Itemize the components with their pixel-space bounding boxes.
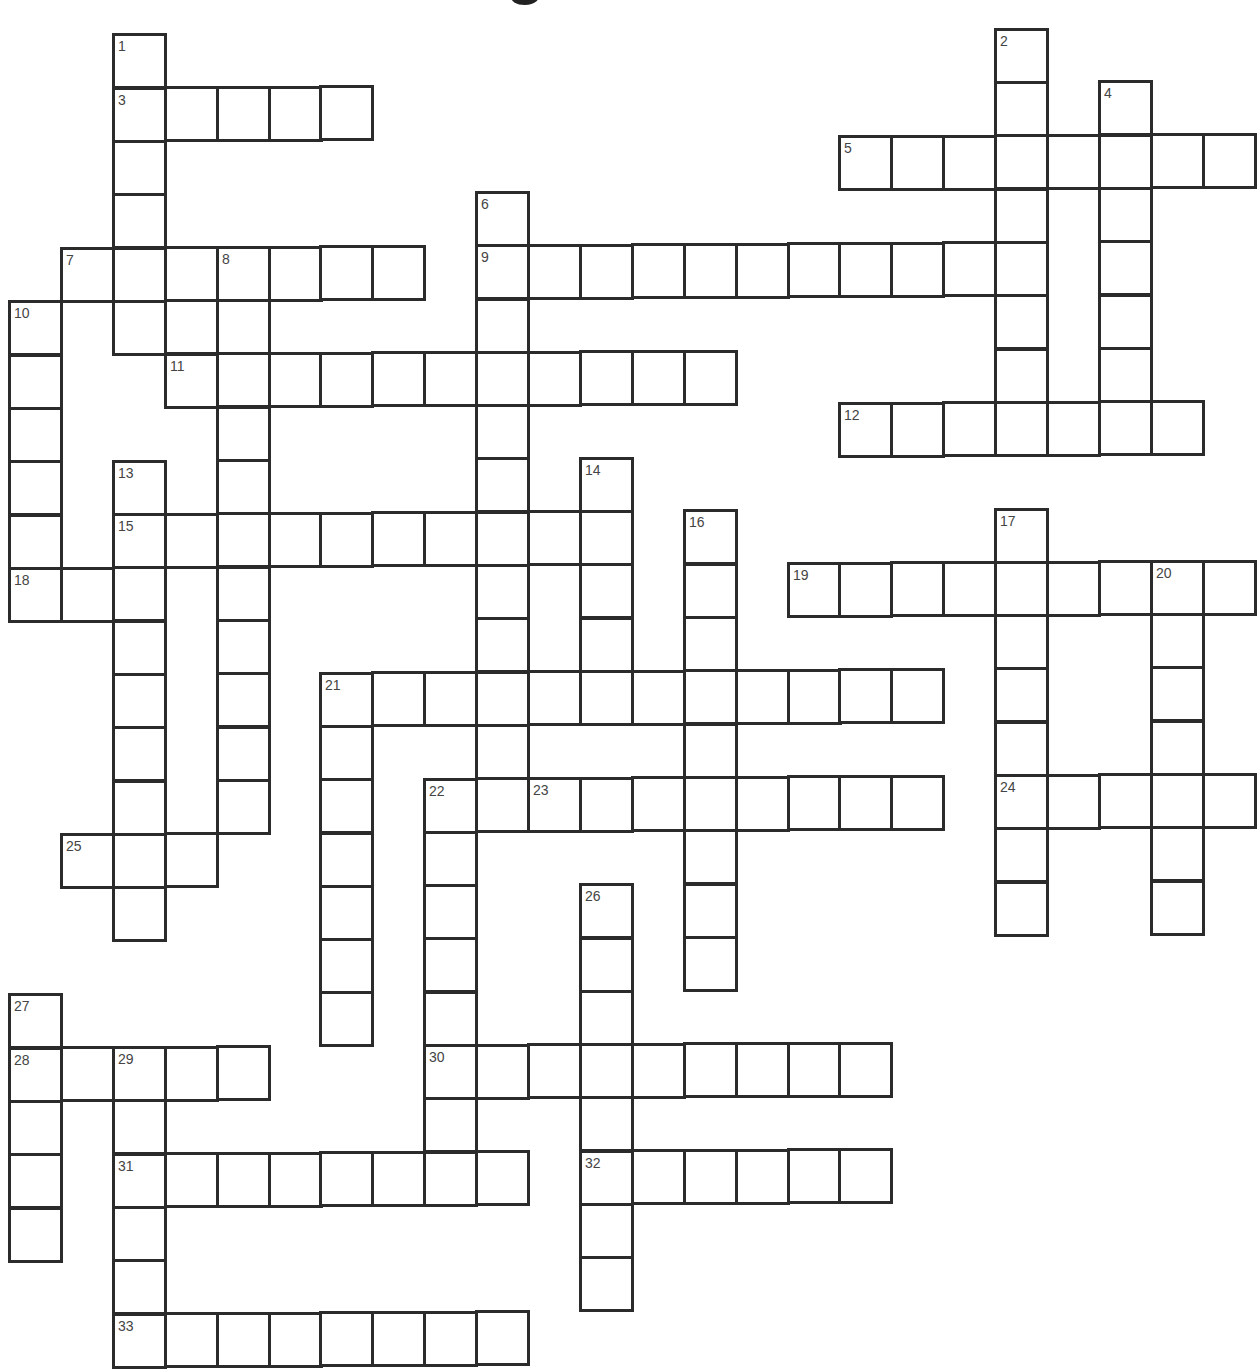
crossword-cell[interactable]: 29 — [112, 1046, 167, 1102]
cell-letter-input[interactable] — [426, 1047, 475, 1097]
cell-letter-input[interactable] — [1049, 564, 1098, 614]
cell-letter-input[interactable] — [997, 244, 1046, 294]
crossword-cell[interactable]: 4 — [1098, 80, 1153, 136]
cell-letter-input[interactable] — [1153, 723, 1202, 773]
crossword-cell[interactable]: 9 — [475, 244, 530, 300]
cell-letter-input[interactable] — [945, 138, 994, 188]
cell-letter-input[interactable] — [478, 567, 527, 617]
crossword-cell[interactable] — [475, 404, 530, 460]
crossword-cell[interactable] — [994, 561, 1049, 617]
crossword-cell[interactable] — [1046, 774, 1101, 830]
cell-letter-input[interactable] — [11, 1050, 60, 1100]
cell-letter-input[interactable] — [167, 1155, 216, 1205]
cell-letter-input[interactable] — [997, 830, 1046, 880]
crossword-cell[interactable]: 8 — [216, 246, 271, 302]
cell-letter-input[interactable] — [997, 724, 1046, 774]
cell-letter-input[interactable] — [219, 409, 268, 459]
crossword-cell[interactable] — [890, 402, 945, 458]
crossword-cell[interactable] — [527, 1043, 582, 1099]
cell-letter-input[interactable] — [1153, 403, 1202, 453]
crossword-cell[interactable]: 26 — [579, 883, 634, 939]
crossword-cell[interactable] — [1098, 400, 1153, 456]
crossword-cell[interactable] — [216, 299, 271, 355]
cell-letter-input[interactable] — [426, 1314, 475, 1364]
cell-letter-input[interactable] — [115, 516, 164, 566]
cell-letter-input[interactable] — [582, 460, 631, 510]
crossword-cell[interactable] — [319, 512, 374, 568]
cell-letter-input[interactable] — [478, 727, 527, 777]
cell-letter-input[interactable] — [1049, 404, 1098, 454]
crossword-cell[interactable] — [1098, 240, 1153, 296]
cell-letter-input[interactable] — [322, 941, 371, 991]
crossword-cell[interactable] — [423, 1097, 478, 1153]
cell-letter-input[interactable] — [322, 248, 371, 298]
crossword-cell[interactable] — [371, 351, 426, 407]
cell-letter-input[interactable] — [686, 1045, 735, 1095]
cell-letter-input[interactable] — [790, 1045, 839, 1095]
crossword-cell[interactable] — [579, 563, 634, 619]
cell-letter-input[interactable] — [582, 513, 631, 563]
crossword-cell[interactable] — [579, 670, 634, 726]
cell-letter-input[interactable] — [530, 780, 579, 830]
crossword-cell[interactable] — [994, 134, 1049, 190]
crossword-cell[interactable] — [423, 884, 478, 940]
cell-letter-input[interactable] — [1205, 136, 1254, 186]
crossword-cell[interactable]: 11 — [164, 353, 219, 409]
cell-letter-input[interactable] — [841, 138, 890, 188]
cell-letter-input[interactable] — [997, 884, 1046, 934]
cell-letter-input[interactable] — [115, 1102, 164, 1152]
crossword-cell[interactable]: 7 — [60, 247, 115, 303]
crossword-cell[interactable]: 32 — [579, 1150, 634, 1206]
crossword-cell[interactable] — [112, 780, 167, 836]
crossword-cell[interactable] — [475, 511, 530, 567]
cell-letter-input[interactable] — [790, 1151, 839, 1201]
cell-letter-input[interactable] — [374, 354, 423, 404]
crossword-cell[interactable] — [8, 1153, 63, 1209]
cell-letter-input[interactable] — [167, 1315, 216, 1365]
cell-letter-input[interactable] — [686, 566, 735, 616]
crossword-cell[interactable]: 10 — [8, 300, 63, 356]
crossword-cell[interactable] — [475, 724, 530, 780]
cell-letter-input[interactable] — [582, 620, 631, 670]
crossword-cell[interactable] — [1150, 400, 1205, 456]
cell-letter-input[interactable] — [167, 89, 216, 139]
crossword-cell[interactable] — [1098, 187, 1153, 243]
cell-letter-input[interactable] — [322, 781, 371, 831]
cell-letter-input[interactable] — [115, 196, 164, 246]
crossword-cell[interactable] — [475, 671, 530, 727]
cell-letter-input[interactable] — [115, 783, 164, 833]
cell-letter-input[interactable] — [11, 517, 60, 567]
cell-letter-input[interactable] — [322, 994, 371, 1044]
crossword-cell[interactable] — [319, 991, 374, 1047]
crossword-cell[interactable] — [268, 246, 323, 302]
crossword-cell[interactable] — [838, 775, 893, 831]
cell-letter-input[interactable] — [63, 1049, 112, 1099]
crossword-cell[interactable] — [683, 723, 738, 779]
crossword-cell[interactable] — [216, 406, 271, 462]
cell-letter-input[interactable] — [582, 353, 631, 403]
crossword-cell[interactable] — [787, 1148, 842, 1204]
crossword-cell[interactable] — [994, 881, 1049, 937]
crossword-cell[interactable]: 24 — [994, 774, 1049, 830]
crossword-cell[interactable] — [890, 775, 945, 831]
cell-letter-input[interactable] — [841, 565, 890, 615]
crossword-cell[interactable] — [216, 512, 271, 568]
crossword-cell[interactable] — [216, 86, 271, 142]
crossword-cell[interactable] — [994, 827, 1049, 883]
cell-letter-input[interactable] — [374, 248, 423, 298]
cell-letter-input[interactable] — [426, 1100, 475, 1150]
cell-letter-input[interactable] — [478, 514, 527, 564]
cell-letter-input[interactable] — [1049, 777, 1098, 827]
cell-letter-input[interactable] — [11, 410, 60, 460]
cell-letter-input[interactable] — [634, 1152, 683, 1202]
crossword-cell[interactable] — [216, 352, 271, 408]
cell-letter-input[interactable] — [686, 512, 735, 562]
crossword-cell[interactable] — [683, 616, 738, 672]
cell-letter-input[interactable] — [738, 246, 787, 296]
crossword-cell[interactable] — [112, 833, 167, 889]
crossword-cell[interactable]: 15 — [112, 513, 167, 569]
crossword-cell[interactable] — [319, 352, 374, 408]
cell-letter-input[interactable] — [426, 1154, 475, 1204]
crossword-cell[interactable] — [1098, 347, 1153, 403]
crossword-cell[interactable] — [112, 300, 167, 356]
